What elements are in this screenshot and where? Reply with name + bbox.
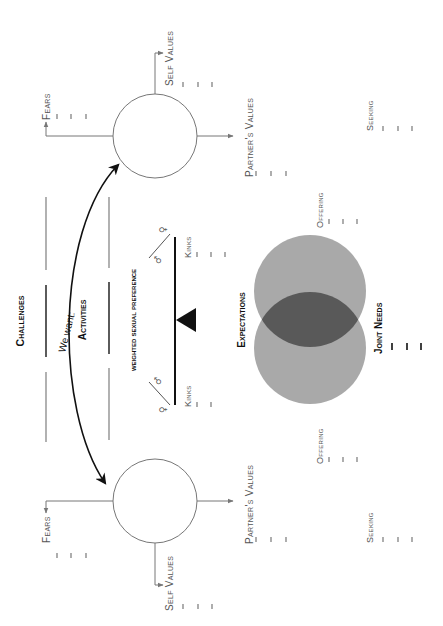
partner-a-group: Fears Self Values Partner's Values Offer…: [41, 31, 412, 228]
lever-bottom-female-symbol: ♀: [158, 406, 168, 413]
partner-b-partners-values-label: Partner's Values: [244, 465, 255, 544]
partner-a-kinks-label: Kinks: [183, 236, 193, 258]
lever-bottom-male-symbol: ♂: [153, 377, 163, 385]
joint-needs-ticks: [392, 343, 421, 350]
partner-a-self-values-ticks: [183, 82, 212, 87]
partner-a-fears-connector: [46, 122, 113, 136]
partner-b-kinks-label: Kinks: [183, 385, 193, 407]
balance-fulcrum: [176, 308, 196, 332]
expectations-venn: [254, 235, 366, 404]
partner-a-seeking-ticks: [383, 126, 412, 131]
partner-a-self-values-label: Self Values: [164, 31, 175, 86]
joint-needs-heading: Joint Needs: [373, 302, 384, 354]
partner-a-circle: [113, 94, 197, 178]
weighted-preference-heading: weighted sexual preference: [129, 269, 138, 371]
we-want-label: We want:: [56, 311, 77, 354]
activities-heading: Activities: [77, 299, 88, 340]
diagram: Fears Self Values Partner's Values Offer…: [0, 0, 443, 626]
partner-a-seeking-label: Seeking: [365, 100, 375, 131]
partner-b-fears-connector: [46, 501, 113, 513]
partner-b-kinks-ticks: [197, 402, 211, 407]
partner-a-partners-values-ticks: [256, 171, 286, 176]
lever-top-male-symbol: ♂: [153, 256, 163, 264]
partner-a-fears-ticks: [57, 114, 86, 119]
partner-b-self-values-ticks: [183, 604, 212, 609]
partner-b-seeking-label: Seeking: [365, 512, 375, 543]
partner-a-self-values-connector: [155, 53, 163, 94]
partner-b-self-values-connector: [155, 543, 163, 585]
partner-a-offering-ticks: [329, 219, 357, 224]
partner-b-seeking-ticks: [383, 537, 412, 542]
partner-a-kinks-ticks: [197, 252, 225, 257]
partner-b-partners-values-ticks: [256, 537, 286, 542]
partner-a-partners-values-label: Partner's Values: [244, 98, 255, 177]
partner-b-group: Fears Self Values Partner's Values Offer…: [41, 428, 412, 611]
partner-a-offering-label: Offering: [315, 192, 325, 228]
partner-a-fears-label: Fears: [41, 93, 52, 120]
expectations-heading: Expectations: [236, 292, 247, 348]
partner-b-self-values-label: Self Values: [164, 556, 175, 611]
partner-b-fears-label: Fears: [41, 516, 52, 543]
partner-b-offering-label: Offering: [315, 428, 325, 464]
partner-b-offering-ticks: [329, 457, 357, 462]
partner-b-fears-ticks: [57, 553, 86, 558]
challenges-heading: Challenges: [14, 295, 26, 346]
lever-top: [149, 234, 170, 258]
lever-top-female-symbol: ♀: [158, 226, 168, 233]
partner-b-circle: [113, 459, 197, 543]
